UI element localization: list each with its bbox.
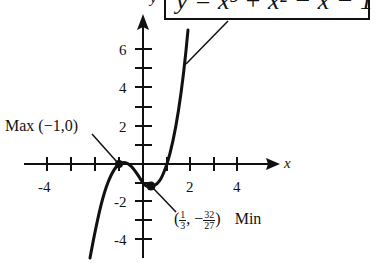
min-word: Min: [235, 210, 262, 227]
y-tick-label-neg2: -2: [114, 195, 127, 210]
min-annotation: (13, −3227) Min: [174, 210, 261, 231]
x-axis: [24, 157, 280, 171]
y-axis-label: y: [150, 0, 157, 6]
x-tick-label-4: 4: [233, 180, 241, 195]
equation-label: y = x³ + x² − x − 1: [176, 0, 373, 16]
y-axis: [135, 14, 152, 258]
y-tick-label-4: 4: [119, 81, 127, 96]
x-axis-arrow-icon: [266, 158, 280, 170]
min-close-paren: ): [215, 210, 220, 227]
y-tick-label-6: 6: [119, 43, 127, 58]
equation-leader-line: [186, 21, 228, 64]
y-tick-label-neg4: -4: [114, 233, 127, 248]
x-tick-label-neg4: -4: [38, 180, 51, 195]
min-y-fraction: 3227: [203, 210, 215, 231]
x-tick-label-2: 2: [186, 180, 194, 195]
min-separator: , −: [186, 210, 203, 227]
min-leader-line: [153, 188, 176, 212]
equation-box: y = x³ + x² − x − 1: [164, 0, 370, 20]
max-annotation: Max (−1,0): [5, 118, 78, 134]
y-tick-label-2: 2: [119, 120, 127, 135]
x-axis-label: x: [284, 156, 291, 171]
